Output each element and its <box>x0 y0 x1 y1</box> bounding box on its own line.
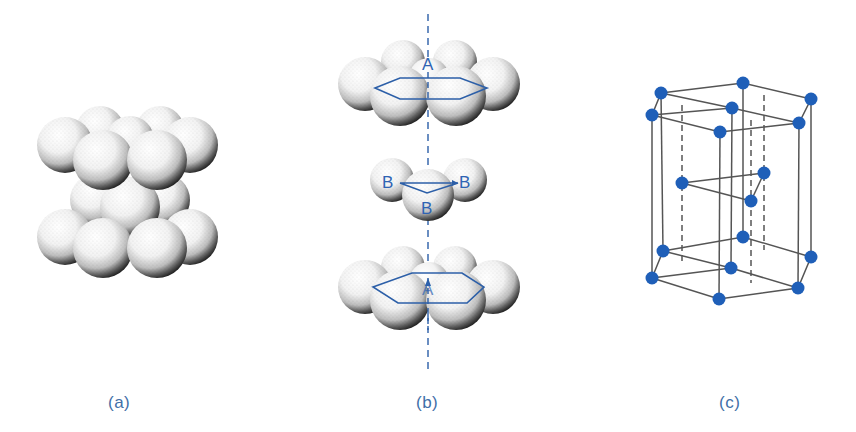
atom <box>646 272 659 285</box>
layer-b-middle: B B B <box>370 158 487 221</box>
atom <box>793 117 806 130</box>
atom <box>758 167 771 180</box>
atom <box>805 93 818 106</box>
hcp-structure-figure: A B B B A <box>0 0 856 432</box>
layer-label-b-bottom: B <box>421 199 432 218</box>
layer-a-bottom: A <box>338 246 520 330</box>
atom <box>657 245 670 258</box>
caption-a: (a) <box>108 393 130 413</box>
atom <box>676 177 689 190</box>
atom <box>792 282 805 295</box>
layer-label-b-right: B <box>459 173 470 192</box>
atom <box>805 251 818 264</box>
sphere <box>127 218 187 278</box>
atom <box>726 102 739 115</box>
sphere <box>73 130 133 190</box>
panel-b-layer-stacking: A B B B A <box>338 14 520 370</box>
panel-a-sphere-stack <box>37 106 218 278</box>
atom <box>714 126 727 139</box>
layer-a-top: A <box>338 40 520 126</box>
atom <box>737 77 750 90</box>
atom <box>725 262 738 275</box>
atom <box>745 195 758 208</box>
atom <box>713 293 726 306</box>
sphere <box>127 130 187 190</box>
caption-b: (b) <box>416 393 438 413</box>
sphere <box>73 218 133 278</box>
layer-label-a-top: A <box>422 55 434 74</box>
atom <box>737 231 750 244</box>
layer-label-b-left: B <box>382 173 393 192</box>
atom <box>646 109 659 122</box>
caption-c: (c) <box>719 393 740 413</box>
layer-label-a-bottom: A <box>422 280 434 299</box>
atom <box>655 87 668 100</box>
